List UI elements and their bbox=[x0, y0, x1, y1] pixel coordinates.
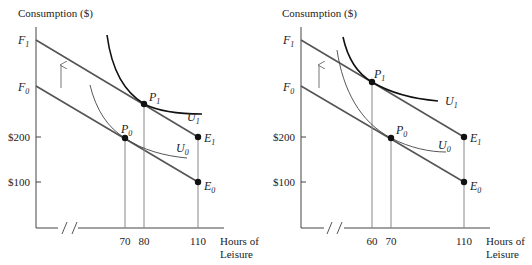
label-u0: U0 bbox=[176, 141, 189, 157]
x-tick-70: 70 bbox=[386, 235, 398, 247]
y-axis-title: Consumption ($) bbox=[18, 7, 93, 20]
x-tick-70: 70 bbox=[120, 235, 132, 247]
label-200: $200 bbox=[8, 131, 31, 143]
label-100: $100 bbox=[8, 176, 31, 188]
budget-line-f1-e1 bbox=[36, 40, 198, 137]
labor-leisure-diagram: Consumption ($) F1 F0 $200 $100 bbox=[0, 0, 532, 265]
left-panel: Consumption ($) F1 F0 $200 $100 bbox=[8, 7, 259, 260]
label-p1: P1 bbox=[373, 67, 385, 83]
x-axis-title-line1: Hours of bbox=[220, 235, 259, 247]
label-e0: E0 bbox=[203, 179, 215, 195]
label-f0: F0 bbox=[17, 80, 29, 96]
label-u1: U1 bbox=[445, 94, 458, 110]
x-tick-80: 80 bbox=[139, 235, 151, 247]
label-100: $100 bbox=[273, 176, 296, 188]
label-p1: P1 bbox=[148, 90, 160, 106]
axis-break-icon bbox=[337, 222, 342, 234]
label-u1: U1 bbox=[187, 110, 200, 126]
x-tick-60: 60 bbox=[367, 235, 379, 247]
right-panel: Consumption ($) F1 F0 $200 $100 P1 P0 E1… bbox=[273, 7, 525, 260]
x-axis-title-line1: Hours of bbox=[486, 235, 525, 247]
budget-line-f0-e0 bbox=[301, 86, 464, 182]
axis-break-icon bbox=[62, 222, 67, 234]
x-tick-110: 110 bbox=[456, 235, 473, 247]
label-u0: U0 bbox=[438, 138, 451, 154]
point-e0 bbox=[461, 179, 467, 185]
label-f1: F1 bbox=[17, 33, 29, 49]
axis-break-icon bbox=[72, 222, 77, 234]
point-p1 bbox=[141, 101, 147, 107]
label-f0: F0 bbox=[282, 80, 294, 96]
budget-line-f1-e1 bbox=[301, 40, 464, 137]
label-e0: E0 bbox=[469, 179, 481, 195]
point-e1 bbox=[195, 134, 201, 140]
label-e1: E1 bbox=[469, 131, 481, 147]
point-p0 bbox=[388, 135, 394, 141]
x-tick-110: 110 bbox=[190, 235, 207, 247]
budget-line-f0-e0 bbox=[36, 86, 198, 182]
label-200: $200 bbox=[273, 131, 296, 143]
y-axis-title: Consumption ($) bbox=[282, 7, 357, 20]
label-p0: P0 bbox=[120, 122, 132, 138]
axis-break-icon bbox=[327, 222, 332, 234]
label-p0: P0 bbox=[395, 123, 407, 139]
indifference-curve-u1 bbox=[343, 37, 438, 101]
label-e1: E1 bbox=[203, 131, 215, 147]
point-e1 bbox=[461, 134, 467, 140]
point-e0 bbox=[195, 179, 201, 185]
x-axis-title-line2: Leisure bbox=[486, 248, 519, 260]
label-f1: F1 bbox=[282, 33, 294, 49]
x-axis-title-line2: Leisure bbox=[220, 248, 253, 260]
